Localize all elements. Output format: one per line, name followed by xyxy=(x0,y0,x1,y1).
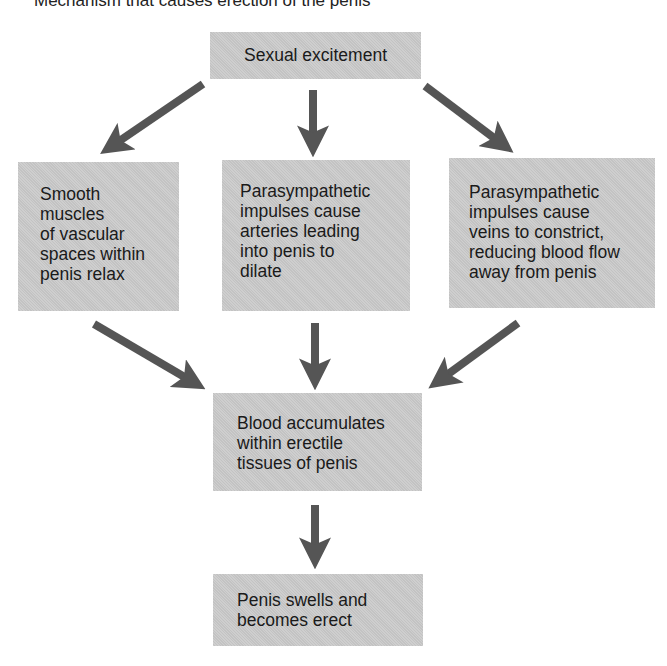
node-text-line: Blood accumulates xyxy=(237,413,422,433)
node-text-line: dilate xyxy=(240,261,410,281)
node-text-line: Smooth xyxy=(40,184,180,204)
node-text-line: away from penis xyxy=(469,262,655,282)
arrow-smooth-muscles-to-blood xyxy=(94,324,193,382)
node-arteries-dilate: Parasympathetic impulses cause arteries … xyxy=(222,160,410,311)
node-text-line: tissues of penis xyxy=(237,453,422,473)
node-veins-constrict: Parasympathetic impulses cause veins to … xyxy=(449,158,655,308)
arrow-trigger-to-smooth-muscles xyxy=(112,84,203,146)
node-text-line: of vascular xyxy=(40,224,180,244)
node-text-line: impulses cause xyxy=(240,201,410,221)
node-text-line: Penis swells and xyxy=(237,590,423,610)
node-text-line: reducing blood flow xyxy=(469,242,655,262)
node-text-line: Parasympathetic xyxy=(240,181,410,201)
node-text-line: muscles xyxy=(40,204,180,224)
flow-arrows xyxy=(0,0,667,666)
node-blood-accumulates: Blood accumulates within erectile tissue… xyxy=(213,393,422,491)
node-text-line: penis relax xyxy=(40,264,180,284)
node-smooth-muscles-relax: Smooth muscles of vascular spaces within… xyxy=(18,162,179,311)
node-penis-erect: Penis swells and becomes erect xyxy=(213,574,423,646)
node-text-line: Sexual excitement xyxy=(210,45,421,65)
node-text-line: Parasympathetic xyxy=(469,182,655,202)
node-sexual-excitement: Sexual excitement xyxy=(210,32,421,79)
arrow-veins-to-blood xyxy=(440,323,518,380)
node-text-line: arteries leading xyxy=(240,221,410,241)
node-text-line: impulses cause xyxy=(469,202,655,222)
arrow-trigger-to-veins xyxy=(425,86,502,144)
node-text-line: within erectile xyxy=(237,433,422,453)
node-text-line: becomes erect xyxy=(237,610,423,630)
node-text-line: into penis to xyxy=(240,241,410,261)
node-text-line: veins to constrict, xyxy=(469,222,655,242)
node-text-line: spaces within xyxy=(40,244,180,264)
